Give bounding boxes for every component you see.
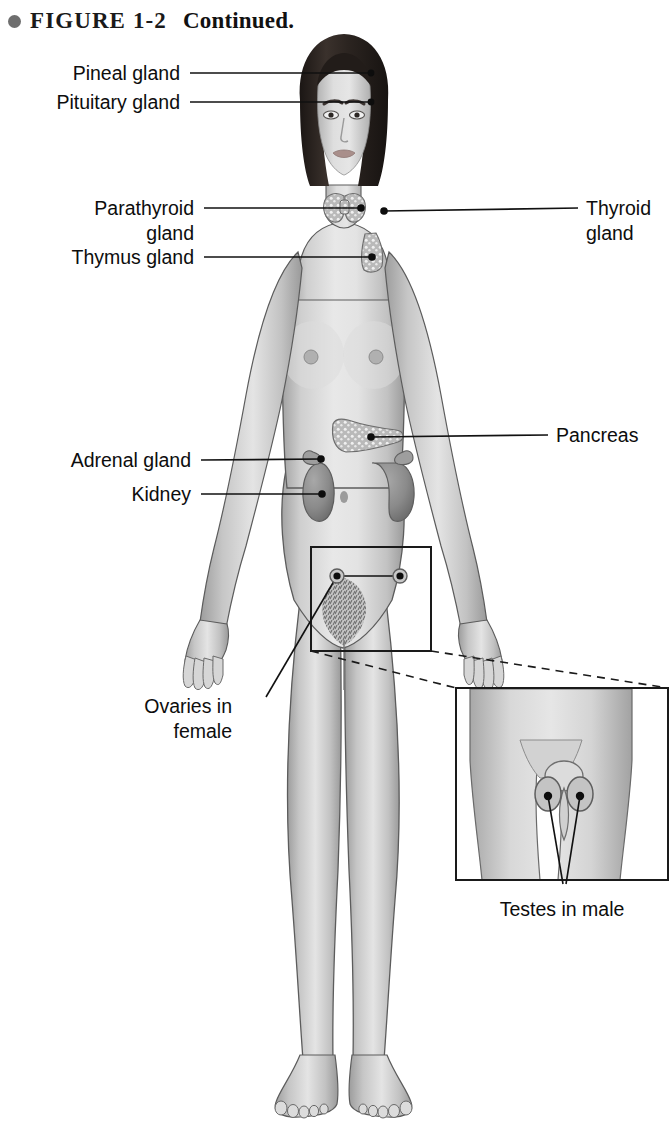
leader-endpoint-dots [317,70,388,498]
label-thyroid-gland: Thyroid gland [586,196,651,246]
label-adrenal-gland: Adrenal gland [71,448,191,473]
label-pancreas: Pancreas [556,423,638,448]
anatomical-illustration: Pineal gland Pituitary gland Parathyroid… [0,0,670,1142]
callout-connector-lines [311,651,668,688]
label-thymus-gland: Thymus gland [72,245,194,270]
label-parathyroid-gland: Parathyroid gland [94,196,194,246]
ovaries-leader [266,569,407,697]
leader-lines [190,73,578,494]
label-kidney: Kidney [131,482,191,507]
ovaries-callout-box [311,547,431,651]
label-pituitary-gland: Pituitary gland [56,90,180,115]
label-pineal-gland: Pineal gland [73,61,180,86]
male-pelvis-inset [456,688,668,884]
label-testes-in-male: Testes in male [440,897,670,922]
label-ovaries-in-female: Ovaries in female [144,694,232,744]
annotation-overlay [0,0,670,1142]
